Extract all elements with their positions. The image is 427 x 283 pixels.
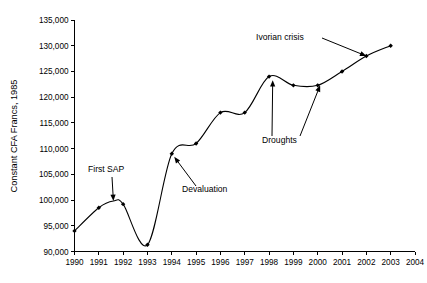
annotation-leader-line	[272, 85, 273, 136]
x-tick-label: 2003	[382, 258, 401, 267]
data-point-markers	[72, 44, 393, 247]
y-tick-label: 120,000	[39, 93, 69, 102]
data-series-line	[75, 46, 391, 246]
x-tick-label: 1999	[284, 258, 303, 267]
x-tick-label: 2004	[406, 258, 425, 267]
y-tick-label: 135,000	[39, 16, 69, 25]
chart-figure: 90,00095,000100,000105,000110,000115,000…	[0, 0, 427, 283]
annotation-leader-line	[177, 161, 196, 186]
x-axis-group: 1990199119921993199419951996199719981999…	[65, 252, 424, 268]
annotation-leader-line	[322, 38, 362, 54]
annotation-arrowhead	[359, 51, 366, 56]
x-tick-label: 1990	[65, 258, 84, 267]
y-tick-label: 125,000	[39, 67, 69, 76]
x-tick-label: 1997	[236, 258, 255, 267]
y-tick-label: 90,000	[43, 248, 68, 257]
y-axis-title: Constant CFA Francs, 1985	[9, 80, 19, 193]
data-point-marker	[291, 83, 295, 87]
annotation-leader-line	[112, 177, 113, 196]
x-tick-label: 1992	[114, 258, 133, 267]
annotation-arrowhead	[174, 157, 180, 164]
annotation-label: Droughts	[262, 135, 297, 145]
x-tick-label: 2000	[309, 258, 328, 267]
x-tick-label: 1991	[90, 258, 109, 267]
line-chart: 90,00095,000100,000105,000110,000115,000…	[0, 0, 427, 283]
x-tick-label: 1996	[211, 258, 230, 267]
annotation-label: First SAP	[88, 164, 125, 174]
data-point-marker	[364, 54, 368, 58]
x-tick-label: 1995	[187, 258, 206, 267]
annotation-leader-line	[300, 90, 318, 136]
x-tick-label: 2002	[357, 258, 376, 267]
annotation-label: Devaluation	[182, 184, 228, 194]
x-axis-tick-labels: 1990199119921993199419951996199719981999…	[65, 258, 424, 267]
y-tick-label: 110,000	[40, 145, 69, 154]
y-axis-tick-labels: 90,00095,000100,000105,000110,000115,000…	[39, 16, 69, 257]
annotation-label: Ivorian crisis	[256, 32, 304, 42]
x-tick-label: 1998	[260, 258, 279, 267]
data-point-marker	[170, 152, 174, 156]
x-axis-ticks	[75, 252, 416, 256]
y-tick-label: 115,000	[40, 119, 69, 128]
annotation-arrowhead	[110, 195, 115, 202]
y-tick-label: 105,000	[39, 170, 69, 179]
y-axis-ticks	[71, 20, 75, 252]
annotation-layer: First SAPDevaluationDroughtsIvorian cris…	[88, 32, 366, 201]
annotation-arrowhead	[270, 80, 275, 86]
y-tick-label: 95,000	[43, 222, 68, 231]
x-tick-label: 2001	[333, 258, 352, 267]
y-axis-group: 90,00095,000100,000105,000110,000115,000…	[39, 16, 75, 257]
x-tick-label: 1993	[138, 258, 157, 267]
y-tick-label: 130,000	[39, 42, 69, 51]
data-point-marker	[388, 44, 392, 48]
y-tick-label: 100,000	[39, 196, 69, 205]
x-tick-label: 1994	[163, 258, 182, 267]
